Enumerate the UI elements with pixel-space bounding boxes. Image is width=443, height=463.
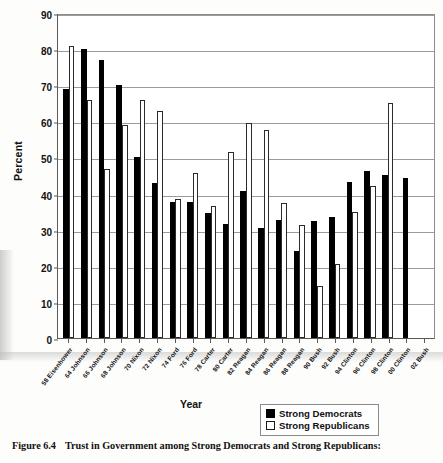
bar-strong-republicans: [281, 203, 287, 338]
bar-strong-republicans: [299, 225, 305, 338]
figure-caption-text: Trust in Government among Strong Democra…: [65, 440, 381, 451]
bar-group: [379, 15, 397, 338]
bar-group: [290, 15, 308, 338]
bar-group: [149, 15, 167, 338]
bar-strong-republicans: [87, 100, 93, 338]
figure-6-4: Percent 0102030405060708090 58 Eisenhowe…: [0, 0, 443, 463]
y-tick-label: 10: [41, 298, 52, 309]
bar-group: [95, 15, 113, 338]
figure-caption: Figure 6.4Trust in Government among Stro…: [12, 440, 437, 451]
figure-number: Figure 6.4: [12, 440, 56, 451]
bar-group: [344, 15, 362, 338]
bar-group: [237, 15, 255, 338]
bar-group: [60, 15, 78, 338]
legend-item-strong-republicans: Strong Republicans: [266, 420, 370, 432]
y-tick-label: 60: [41, 118, 52, 129]
bar-strong-republicans: [175, 199, 181, 338]
y-tick-label: 0: [46, 335, 52, 346]
y-tick-label: 30: [41, 226, 52, 237]
bar-strong-republicans: [335, 264, 341, 338]
bar-series-container: [58, 15, 434, 338]
chart-legend: Strong Democrats Strong Republicans: [260, 404, 379, 436]
bar-group: [184, 15, 202, 338]
x-label-slot: 90 Bush: [308, 344, 326, 396]
bar-group: [308, 15, 326, 338]
bar-strong-republicans: [140, 100, 146, 338]
bar-strong-republicans: [193, 173, 199, 338]
y-tick-label: 90: [41, 10, 52, 21]
bar-group: [397, 15, 415, 338]
legend-label-strong-democrats: Strong Democrats: [279, 408, 362, 420]
legend-swatch-filled-square-icon: [266, 409, 275, 418]
bar-group: [326, 15, 344, 338]
bar-strong-republicans: [228, 152, 234, 338]
bar-group: [202, 15, 220, 338]
bar-strong-republicans: [157, 111, 163, 338]
y-tick-label: 40: [41, 190, 52, 201]
bar-group: [219, 15, 237, 338]
bar-strong-republicans: [211, 206, 217, 338]
bar-group: [414, 15, 432, 338]
bar-strong-republicans: [69, 46, 75, 339]
bar-strong-democrats: [403, 178, 409, 338]
bar-group: [113, 15, 131, 338]
legend-item-strong-democrats: Strong Democrats: [266, 408, 370, 420]
bar-strong-republicans: [264, 130, 270, 338]
plot-area: 0102030405060708090: [57, 14, 435, 339]
x-axis-labels: 58 Eisenhower64 Johnson66 Johnson68 John…: [57, 344, 435, 396]
bar-group: [131, 15, 149, 338]
legend-swatch-open-square-icon: [266, 421, 275, 430]
y-tick-label: 70: [41, 82, 52, 93]
legend-label-strong-republicans: Strong Republicans: [279, 420, 370, 432]
bar-group: [78, 15, 96, 338]
bar-strong-republicans: [122, 125, 128, 338]
bar-strong-republicans: [352, 212, 358, 338]
bar-strong-republicans: [388, 103, 394, 338]
bar-strong-republicans: [246, 123, 252, 338]
plot-frame: 0102030405060708090: [57, 14, 435, 339]
y-tick-label: 20: [41, 262, 52, 273]
y-tick-label: 80: [41, 46, 52, 57]
y-tick-label: 50: [41, 154, 52, 165]
x-label-slot: 00 Clinton: [397, 344, 415, 396]
y-axis-title: Percent: [12, 121, 24, 201]
x-label-slot: 88 Reagan: [291, 344, 309, 396]
bar-strong-republicans: [317, 286, 323, 338]
bar-strong-republicans: [370, 186, 376, 338]
bar-group: [255, 15, 273, 338]
x-axis-title: Year: [180, 398, 202, 410]
bar-group: [361, 15, 379, 338]
bar-group: [273, 15, 291, 338]
x-label-slot: 74 Ford: [166, 344, 184, 396]
x-label-slot: 02 Bush: [415, 344, 433, 396]
bar-strong-republicans: [104, 169, 110, 338]
x-label-slot: 72 Nixon: [148, 344, 166, 396]
bar-group: [166, 15, 184, 338]
